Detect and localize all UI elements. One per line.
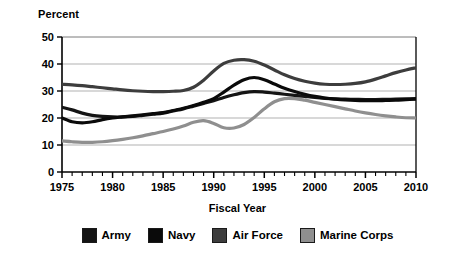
line-chart-svg: 0102030405019751980198519901995200020052… <box>0 0 475 200</box>
legend-swatch-navy <box>148 228 163 243</box>
x-tick-label-2005: 2005 <box>353 181 377 193</box>
x-tick-label-1995: 1995 <box>252 181 276 193</box>
legend-label: Air Force <box>232 230 283 242</box>
y-tick-label-40: 40 <box>42 58 54 70</box>
legend-item-navy[interactable]: Navy <box>148 228 196 243</box>
x-tick-label-2010: 2010 <box>404 181 428 193</box>
chart-legend: ArmyNavyAir ForceMarine Corps <box>0 228 475 243</box>
x-tick-label-1980: 1980 <box>100 181 124 193</box>
legend-swatch-army <box>82 228 97 243</box>
legend-item-air-force[interactable]: Air Force <box>212 228 283 243</box>
y-tick-label-0: 0 <box>48 166 54 178</box>
legend-item-marine-corps[interactable]: Marine Corps <box>300 228 394 243</box>
chart-figure: Percent 01020304050197519801985199019952… <box>0 0 475 265</box>
legend-label: Navy <box>168 230 196 242</box>
x-tick-label-1975: 1975 <box>50 181 74 193</box>
legend-label: Army <box>102 230 131 242</box>
series-group <box>62 60 416 143</box>
legend-swatch-marine-corps <box>300 228 315 243</box>
series-line-marine-corps <box>62 98 416 142</box>
y-tick-label-50: 50 <box>42 31 54 43</box>
x-tick-label-2000: 2000 <box>303 181 327 193</box>
legend-swatch-air-force <box>212 228 227 243</box>
x-axis-label: Fiscal Year <box>0 202 475 214</box>
x-tick-label-1990: 1990 <box>201 181 225 193</box>
legend-item-army[interactable]: Army <box>82 228 131 243</box>
legend-label: Marine Corps <box>320 230 394 242</box>
y-tick-label-10: 10 <box>42 139 54 151</box>
y-tick-label-30: 30 <box>42 85 54 97</box>
plot-area-wrapper: 0102030405019751980198519901995200020052… <box>0 0 475 200</box>
y-tick-label-20: 20 <box>42 112 54 124</box>
x-tick-label-1985: 1985 <box>151 181 175 193</box>
